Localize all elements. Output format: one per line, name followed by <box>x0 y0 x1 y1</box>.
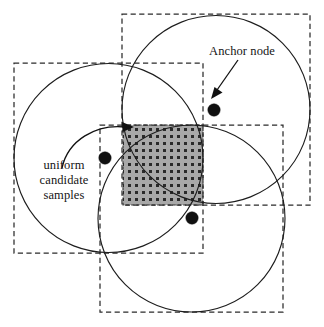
anchor-node-arrow <box>211 60 238 99</box>
anchor-node-label: Anchor node <box>209 44 275 59</box>
anchor-node-bottom <box>186 212 198 224</box>
diagram-canvas: Anchor node uniform candidate samples <box>0 0 324 327</box>
anchor-node-top-right <box>208 104 220 116</box>
uniform-candidate-sample-region <box>123 125 203 205</box>
uniform-candidate-samples-label: uniform candidate samples <box>22 158 106 202</box>
